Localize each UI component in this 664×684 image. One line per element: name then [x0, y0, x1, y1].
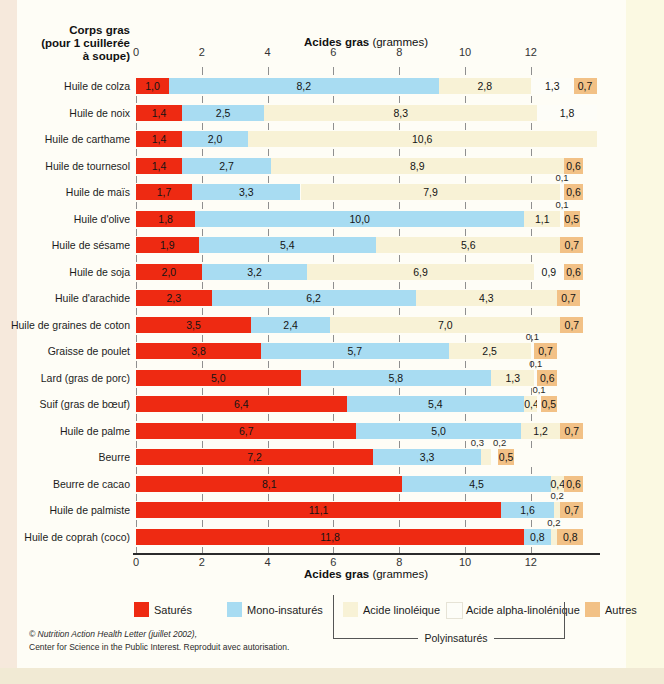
gridline-dash: [399, 96, 400, 103]
row-label: Huile de carthame: [0, 132, 130, 146]
gridline-dash: [333, 176, 334, 183]
gridline-dash: [136, 229, 137, 236]
gridline-dash: [202, 282, 203, 289]
gridline-dash: [531, 176, 532, 183]
gridline-dash: [136, 255, 137, 262]
gridline-dash: [465, 255, 466, 262]
value-label: 3,8: [136, 343, 261, 359]
bottom-axis-title-units: (grammes): [369, 568, 428, 580]
gridline-dash: [465, 282, 466, 289]
gridline-dash: [531, 520, 532, 527]
value-label: 3,3: [373, 449, 482, 465]
value-label: 1,4: [136, 105, 182, 121]
value-label: 5,8: [301, 370, 492, 386]
gridline-dash: [136, 520, 137, 527]
legend-label-autres: Autres: [605, 604, 637, 616]
gridline-dash: [268, 67, 269, 75]
legend-label-acide-alpha-linolenique: Acide alpha-linolénique: [466, 604, 580, 616]
gridline-dash: [136, 388, 137, 395]
bar-segment-lin: [551, 529, 558, 545]
gridline-dash: [202, 123, 203, 130]
gridline-dash: [531, 282, 532, 289]
value-label: 5,4: [347, 396, 525, 412]
row-label: Beurre de cacao: [0, 477, 130, 491]
gridline-dash: [136, 547, 137, 553]
gridline-dash: [399, 494, 400, 501]
value-label: 6,4: [136, 396, 347, 412]
value-label: 5,6: [376, 237, 560, 253]
value-label: 6,2: [212, 290, 416, 306]
value-label: 0,7: [560, 237, 583, 253]
gridline-dash: [531, 255, 532, 262]
gridline-dash: [333, 335, 334, 342]
bottom-axis-tick-label: 8: [388, 556, 410, 568]
gridline-dash: [268, 149, 269, 156]
gridline-dash: [333, 414, 334, 421]
row-label: Huile de graines de coton: [0, 318, 130, 332]
polyunsaturated-bracket-line-right: [494, 638, 565, 639]
value-label: 2,3: [136, 290, 212, 306]
value-label-above: 0,1: [517, 332, 547, 342]
gridline-dash: [399, 547, 400, 553]
gridline-dash: [399, 255, 400, 262]
gridline-dash: [399, 282, 400, 289]
gridline-dash: [268, 361, 269, 368]
value-label: 10,0: [195, 211, 524, 227]
top-axis-tick-label: 10: [454, 46, 476, 58]
value-label: 11,1: [136, 502, 501, 518]
gridline-dash: [465, 335, 466, 342]
gridline-dash: [136, 202, 137, 209]
value-label: 0,6: [564, 264, 584, 280]
value-label: 4,5: [402, 476, 550, 492]
polyunsaturated-bracket-line-left: [333, 638, 418, 639]
gridline-dash: [202, 229, 203, 236]
gridline-dash: [531, 414, 532, 421]
gridline-dash: [202, 149, 203, 156]
legend-label-satures: Saturés: [154, 604, 192, 616]
gridline-dash: [268, 176, 269, 183]
value-label: 0,7: [557, 290, 580, 306]
gridline-dash: [399, 467, 400, 474]
gridline-dash: [531, 467, 532, 474]
bottom-axis-title: Acides gras (grammes): [216, 568, 516, 580]
gridline-dash: [333, 441, 334, 448]
gridline-dash: [333, 149, 334, 156]
gridline-dash: [531, 96, 532, 103]
gridline-dash: [399, 123, 400, 130]
value-label: 2,0: [136, 264, 202, 280]
gridline-dash: [202, 335, 203, 342]
gridline-dash: [399, 414, 400, 421]
gridline-dash: [399, 520, 400, 527]
legend-swatch-autres: [585, 602, 600, 617]
gridline-dash: [465, 202, 466, 209]
gridline-dash: [333, 388, 334, 395]
gridline-dash: [531, 123, 532, 130]
gridline-dash: [465, 123, 466, 130]
gridline-dash: [399, 308, 400, 315]
gridline-dash: [399, 441, 400, 448]
gridline-dash: [333, 547, 334, 553]
value-label: 0,5: [541, 396, 557, 412]
row-label: Lard (gras de porc): [0, 371, 130, 385]
gridline-dash: [531, 229, 532, 236]
row-label: Huile de soja: [0, 265, 130, 279]
gridline-dash: [465, 67, 466, 75]
value-label-above: 0,2: [539, 518, 569, 528]
value-label: 1,1: [524, 211, 560, 227]
gridline-dash: [465, 467, 466, 474]
top-axis-tick-label: 2: [191, 46, 213, 58]
value-label: 0,5: [498, 449, 514, 465]
value-label: 0,8: [557, 529, 583, 545]
value-label: 8,9: [271, 158, 564, 174]
gridline-dash: [136, 176, 137, 183]
gridline-dash: [333, 229, 334, 236]
value-label: 6,9: [307, 264, 534, 280]
gridline-dash: [399, 149, 400, 156]
gridline-dash: [136, 441, 137, 448]
gridline-dash: [531, 67, 532, 75]
gridline-dash: [531, 441, 532, 448]
value-label-above: 0,2: [485, 438, 515, 448]
value-label: 1,4: [136, 131, 182, 147]
gridline-dash: [202, 414, 203, 421]
gridline-dash: [531, 494, 532, 501]
